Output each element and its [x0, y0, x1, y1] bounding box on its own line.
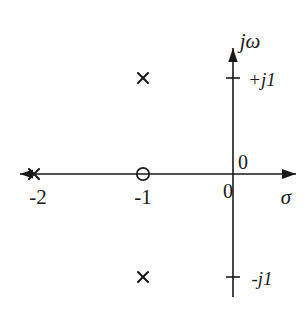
origin-label-lower: 0	[223, 181, 233, 201]
real-axis-arrow-right-icon	[282, 169, 296, 179]
tick-label-minus-2: -2	[29, 187, 47, 208]
imaginary-axis	[228, 48, 237, 297]
tick-label-minus-j1: -j1	[251, 269, 272, 288]
imaginary-axis-arrow-up-icon	[228, 48, 237, 62]
pole-marker-minus-1-plus-j1	[138, 73, 148, 83]
pole-zero-plot-figure: jω σ 0 0 +j1 -j1 -2 -1	[0, 0, 306, 309]
imaginary-axis-label: jω	[240, 31, 261, 52]
real-axis-label: σ	[281, 187, 291, 208]
tick-label-minus-1: -1	[134, 187, 152, 208]
origin-label-upper: 0	[238, 152, 248, 172]
tick-label-plus-j1: +j1	[248, 70, 276, 89]
pole-marker-minus-1-minus-j1	[138, 272, 148, 282]
real-axis	[20, 169, 296, 179]
